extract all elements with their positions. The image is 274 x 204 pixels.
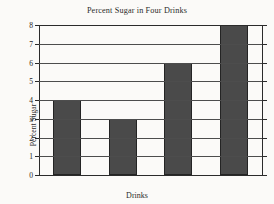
y-tick-label-0: 0 xyxy=(29,171,33,180)
x-axis-title: Drinks xyxy=(0,191,274,200)
y-axis-title: Percent Sugar xyxy=(29,104,38,146)
gridline-6 xyxy=(39,63,262,64)
gridline-2 xyxy=(39,138,262,139)
y-tick-mark-6 xyxy=(35,63,39,64)
gridline-5 xyxy=(39,81,262,82)
gridline-8 xyxy=(39,25,262,26)
gridline-4 xyxy=(39,100,262,101)
y-tick-label-1: 1 xyxy=(29,152,33,161)
y-tick-mark-4 xyxy=(35,100,39,101)
y-tick-mark-right-3 xyxy=(262,119,267,120)
y-tick-mark-8 xyxy=(35,25,39,26)
y-tick-mark-3 xyxy=(35,119,39,120)
y-tick-mark-right-1 xyxy=(262,156,267,157)
gridline-3 xyxy=(39,119,262,120)
y-tick-mark-7 xyxy=(35,44,39,45)
chart-title: Percent Sugar in Four Drinks xyxy=(0,6,274,15)
gridline-1 xyxy=(39,156,262,157)
y-tick-label-6: 6 xyxy=(29,58,33,67)
y-tick-mark-1 xyxy=(35,156,39,157)
bar-chart-figure: Percent Sugar in Four Drinks 012345678 A… xyxy=(0,0,274,204)
y-tick-label-7: 7 xyxy=(29,39,33,48)
y-tick-mark-right-0 xyxy=(262,175,267,176)
y-tick-mark-right-5 xyxy=(262,81,267,82)
y-tick-mark-right-6 xyxy=(262,63,267,64)
bar-b xyxy=(109,119,137,175)
y-tick-mark-right-8 xyxy=(262,25,267,26)
y-tick-mark-0 xyxy=(35,175,39,176)
y-tick-mark-right-4 xyxy=(262,100,267,101)
x-axis-line xyxy=(39,175,262,176)
plot-area: 012345678 ABCD Percent Sugar xyxy=(39,25,262,175)
y-tick-mark-right-7 xyxy=(262,44,267,45)
y-tick-mark-right-2 xyxy=(262,138,267,139)
y-tick-label-5: 5 xyxy=(29,77,33,86)
y-tick-mark-5 xyxy=(35,81,39,82)
y-tick-label-8: 8 xyxy=(29,21,33,30)
gridline-7 xyxy=(39,44,262,45)
y-tick-mark-2 xyxy=(35,138,39,139)
